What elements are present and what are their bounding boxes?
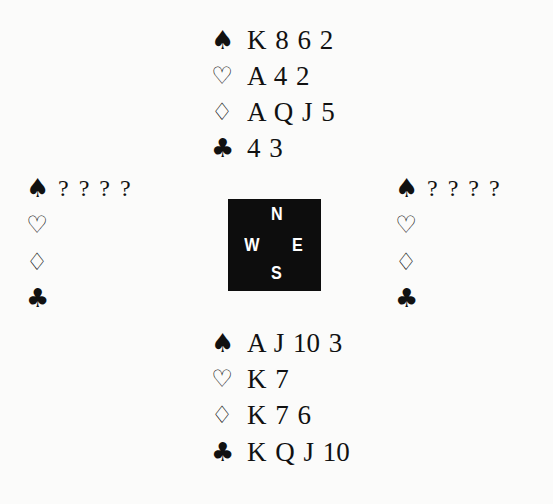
club-icon: ♣: [26, 280, 48, 316]
north-hearts-row: ♡ A 4 2: [211, 58, 310, 94]
north-clubs-cards: 4 3: [247, 130, 283, 166]
south-diamonds-row: ♢ K 7 6: [211, 397, 311, 433]
north-diamonds-row: ♢ A Q J 5: [211, 94, 335, 130]
south-spades-cards: A J 10 3: [247, 325, 342, 361]
north-clubs-row: ♣ 4 3: [211, 130, 283, 166]
compass-east-label: E: [292, 235, 303, 254]
diamond-icon: ♢: [26, 244, 48, 280]
spade-icon: ♠: [211, 22, 233, 58]
spade-icon: ♠: [26, 170, 48, 206]
west-clubs-row: ♣: [26, 280, 58, 316]
south-clubs-row: ♣ K Q J 10: [211, 434, 350, 470]
club-icon: ♣: [395, 280, 417, 316]
west-hearts-row: ♡: [26, 207, 58, 243]
south-diamonds-cards: K 7 6: [247, 397, 311, 433]
heart-icon: ♡: [211, 361, 233, 397]
compass-west-label: W: [244, 235, 259, 254]
north-spades-cards: K 8 6 2: [247, 22, 333, 58]
club-icon: ♣: [211, 130, 233, 166]
club-icon: ♣: [211, 434, 233, 470]
spade-icon: ♠: [211, 325, 233, 361]
east-hearts-row: ♡: [395, 207, 427, 243]
south-clubs-cards: K Q J 10: [247, 434, 350, 470]
south-spades-row: ♠ A J 10 3: [211, 325, 342, 361]
east-diamonds-row: ♢: [395, 244, 427, 280]
diamond-icon: ♢: [395, 244, 417, 280]
south-hearts-cards: K 7: [247, 361, 289, 397]
north-hearts-cards: A 4 2: [247, 58, 310, 94]
west-spades-row: ♠ ? ? ? ?: [26, 170, 132, 206]
heart-icon: ♡: [26, 207, 48, 243]
south-hearts-row: ♡ K 7: [211, 361, 289, 397]
heart-icon: ♡: [395, 207, 417, 243]
diamond-icon: ♢: [211, 94, 233, 130]
east-spades-cards: ? ? ? ?: [427, 170, 501, 206]
east-spades-row: ♠ ? ? ? ?: [395, 170, 501, 206]
heart-icon: ♡: [211, 58, 233, 94]
spade-icon: ♠: [395, 170, 417, 206]
compass-table: N W E S: [228, 199, 321, 291]
west-diamonds-row: ♢: [26, 244, 58, 280]
east-clubs-row: ♣: [395, 280, 427, 316]
diamond-icon: ♢: [211, 397, 233, 433]
north-diamonds-cards: A Q J 5: [247, 94, 335, 130]
north-spades-row: ♠ K 8 6 2: [211, 22, 333, 58]
compass-south-label: S: [271, 263, 282, 282]
west-spades-cards: ? ? ? ?: [58, 170, 132, 206]
compass-north-label: N: [271, 204, 283, 223]
